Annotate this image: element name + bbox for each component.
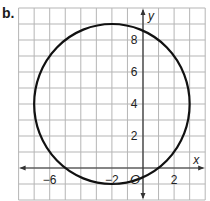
x-axis-arrow-left-icon: [20, 166, 26, 171]
origin-label: O: [130, 172, 140, 187]
circle-graph: b. −6−222468 x y O: [0, 0, 210, 201]
y-axis-label: y: [147, 9, 155, 23]
x-axis-label: x: [192, 153, 200, 167]
x-tick-label: 2: [171, 173, 178, 187]
y-tick-label: 2: [131, 129, 138, 143]
y-tick-label: 6: [131, 65, 138, 79]
y-tick-label: 8: [131, 33, 138, 47]
y-tick-label: 4: [131, 97, 138, 111]
part-label: b.: [2, 5, 14, 21]
x-tick-label: −2: [105, 173, 119, 187]
y-axis-arrow-down-icon: [141, 193, 146, 199]
grid: [19, 8, 206, 200]
y-axis-arrow-up-icon: [141, 9, 146, 15]
x-tick-label: −6: [43, 173, 57, 187]
